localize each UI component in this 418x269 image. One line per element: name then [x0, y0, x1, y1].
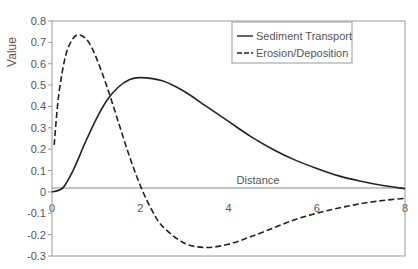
y-tick-label: 0.7: [31, 36, 46, 48]
y-tick-label: -0.3: [27, 250, 46, 262]
legend-label-erosion-deposition: Erosion/Deposition: [256, 47, 348, 59]
y-axis-label: Value: [5, 37, 19, 67]
legend: Sediment Transport Erosion/Deposition: [232, 22, 352, 63]
y-tick-label: 0: [40, 186, 46, 198]
y-tick-label: 0.1: [31, 165, 46, 177]
series-sediment-transport: [52, 78, 405, 192]
series-erosion-deposition: [54, 35, 405, 248]
y-tick-label: -0.1: [27, 207, 46, 219]
y-tick-label: 0.3: [31, 122, 46, 134]
line-chart: 0.80.70.60.50.40.30.20.10-0.1-0.2-0.3 02…: [0, 0, 418, 269]
x-axis-label: Distance: [237, 174, 280, 186]
y-tick-label: -0.2: [27, 229, 46, 241]
y-tick-label: 0.6: [31, 58, 46, 70]
y-axis-ticks: 0.80.70.60.50.40.30.20.10-0.1-0.2-0.3: [27, 15, 52, 262]
x-axis-ticks: 02468: [49, 202, 408, 214]
y-tick-label: 0.8: [31, 15, 46, 27]
y-tick-label: 0.5: [31, 79, 46, 91]
legend-label-sediment-transport: Sediment Transport: [256, 30, 352, 42]
y-tick-label: 0.2: [31, 143, 46, 155]
y-tick-label: 0.4: [31, 100, 46, 112]
x-tick-label: 2: [137, 202, 143, 214]
x-tick-label: 4: [225, 202, 231, 214]
